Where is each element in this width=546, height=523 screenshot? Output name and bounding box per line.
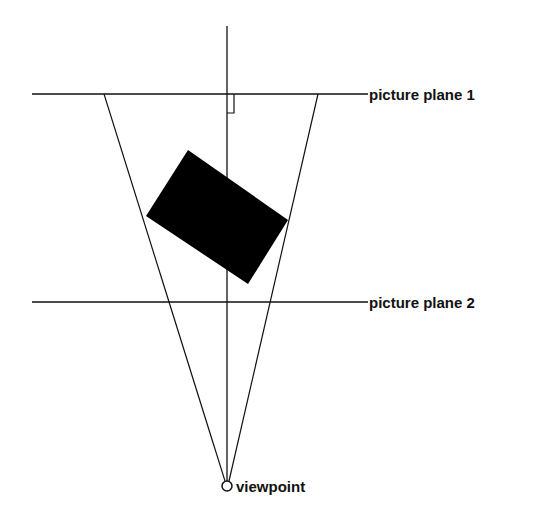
object-rectangle	[146, 150, 288, 284]
picture-plane-1-label: picture plane 1	[369, 87, 475, 102]
picture-plane-2-label: picture plane 2	[369, 295, 475, 310]
frustum-right-line	[229, 94, 318, 481]
diagram-drawing	[0, 0, 546, 523]
frustum-left-line	[104, 94, 225, 481]
perspective-diagram: picture plane 1 picture plane 2 viewpoin…	[0, 0, 546, 523]
viewpoint-marker	[222, 481, 232, 491]
viewpoint-label: viewpoint	[236, 479, 305, 494]
right-angle-marker	[227, 94, 234, 113]
